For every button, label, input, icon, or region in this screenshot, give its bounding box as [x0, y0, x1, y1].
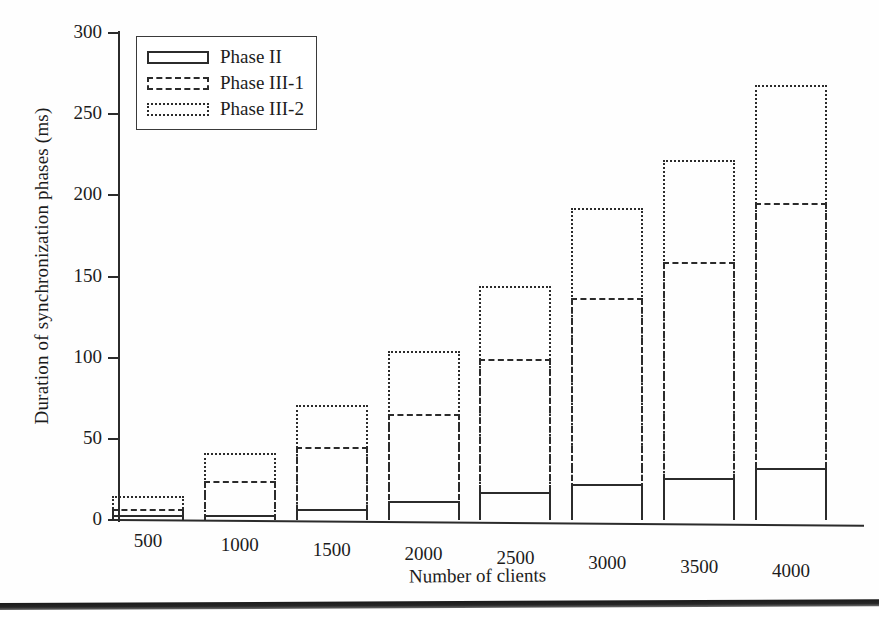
legend-item[interactable]: Phase II [147, 44, 304, 70]
bar-group-2500[interactable] [479, 33, 551, 520]
y-tick-label: 250 [36, 103, 102, 122]
bar-segment[interactable] [112, 515, 184, 520]
page-bottom-margin [0, 610, 879, 619]
x-axis-spine [116, 519, 864, 527]
legend-item[interactable]: Phase III-2 [147, 96, 304, 122]
y-tick-label: 50 [36, 428, 102, 447]
bar-group-3000[interactable] [571, 33, 643, 520]
legend-swatch-dotted-icon [147, 103, 209, 116]
bar-group-4000[interactable] [755, 33, 827, 520]
x-tick-label: 1000 [195, 535, 285, 554]
bar-group-3500[interactable] [663, 33, 735, 520]
y-tick-label: 100 [36, 347, 102, 366]
legend-item[interactable]: Phase III-1 [147, 70, 304, 96]
x-axis-label: Number of clients [0, 565, 879, 587]
bar-segment[interactable] [204, 515, 276, 520]
bar-segment[interactable] [755, 468, 827, 520]
legend-swatch-dashed-icon [147, 77, 209, 90]
x-tick-label: 2000 [379, 544, 469, 563]
y-tick-label: 300 [36, 22, 102, 41]
legend: Phase IIPhase III-1Phase III-2 [136, 36, 317, 130]
stacked-bar-chart: Duration of synchronization phases (ms) … [0, 0, 879, 600]
bar-group-2000[interactable] [388, 33, 460, 520]
bar-segment[interactable] [479, 492, 551, 520]
bar-segment[interactable] [571, 484, 643, 520]
scan-edge-artifact [0, 599, 879, 610]
legend-swatch-solid-icon [147, 51, 209, 64]
figure-page: Duration of synchronization phases (ms) … [0, 0, 879, 619]
y-tick-label: 0 [36, 509, 102, 528]
legend-label: Phase III-1 [220, 72, 304, 94]
x-tick-label: 500 [103, 531, 193, 550]
x-axis-label-text: Number of clients [409, 565, 546, 588]
y-tick-label: 200 [36, 184, 102, 203]
bar-segment[interactable] [296, 509, 368, 520]
y-tick-label: 150 [36, 266, 102, 285]
legend-label: Phase III-2 [220, 98, 304, 120]
legend-label: Phase II [220, 46, 282, 68]
bar-segment[interactable] [663, 478, 735, 520]
bar-segment[interactable] [388, 501, 460, 520]
x-tick-label: 1500 [287, 540, 377, 559]
